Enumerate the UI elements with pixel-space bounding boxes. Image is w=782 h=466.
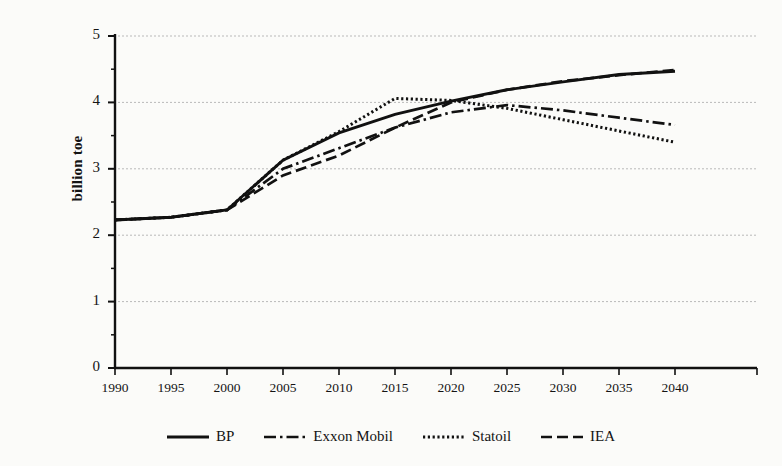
legend-item-statoil[interactable]: Statoil [423,428,511,445]
legend-label: Exxon Mobil [313,428,393,445]
series-line-iea [115,70,675,220]
legend-swatch-dotted [423,431,465,443]
legend-item-exxon-mobil[interactable]: Exxon Mobil [264,428,393,445]
legend-swatch-dash-dot [264,431,306,443]
legend-item-iea[interactable]: IEA [541,428,615,445]
axis-ticks [108,36,757,375]
data-series-group [115,70,675,220]
legend-swatch-solid [167,431,209,443]
series-line-bp [115,71,675,220]
axes [114,34,757,368]
line-chart-plot [0,0,782,466]
chart-page: billion toe 543210 199019952000200520102… [0,0,782,466]
gridlines [114,36,757,302]
legend-swatch-dashed [541,431,583,443]
series-line-statoil [115,98,675,220]
chart-legend: BPExxon MobilStatoilIEA [0,428,782,445]
legend-item-bp[interactable]: BP [167,428,234,445]
legend-label: BP [216,428,234,445]
legend-label: Statoil [472,428,511,445]
legend-label: IEA [590,428,615,445]
series-line-exxon-mobil [115,105,675,220]
